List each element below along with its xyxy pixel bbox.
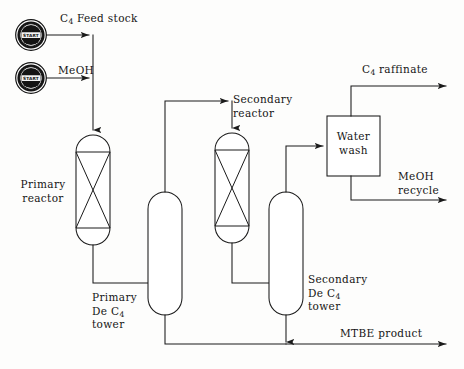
- stream-label-c4-raffinate: C4 raffinate: [362, 63, 428, 77]
- stream-line-primary-tower-bottoms: [165, 315, 286, 344]
- equipment-label-water-wash: Waterwash: [327, 130, 380, 157]
- equipment-label-primary-tower-line1: Primary: [92, 291, 137, 303]
- equipment-primary-de-c4-tower[interactable]: [148, 192, 182, 315]
- stream-label-c4-raffinate-subscript: 4: [370, 68, 375, 77]
- primary-tower-shell: [148, 192, 182, 315]
- equipment-label-primary-de-c4-tower: PrimaryDe C4tower: [92, 291, 137, 332]
- equipment-secondary-reactor[interactable]: [215, 133, 249, 243]
- equipment-label-secondary-tower-line3: tower: [308, 300, 341, 312]
- stream-line-secondary-tower-overhead-to-water-wash: [286, 146, 323, 192]
- stream-label-c4-feed-suffix: Feed stock: [73, 12, 138, 24]
- equipment-label-water-wash-line1: Water: [337, 130, 370, 142]
- equipment-label-primary-tower-line3: tower: [92, 318, 125, 330]
- stream-label-mtbe-product: MTBE product: [340, 327, 422, 341]
- process-flow-diagram: START START: [0, 0, 464, 369]
- stream-line-c4-raffinate: [351, 86, 446, 116]
- equipment-label-secondary-de-c4-tower: SecondaryDe C4tower: [308, 273, 367, 314]
- equipment-label-secondary-tower-line1: Secondary: [308, 273, 367, 285]
- equipment-label-primary-reactor-line1: Primary: [20, 178, 65, 190]
- start-node-meoh-feed[interactable]: START: [16, 63, 47, 94]
- equipment-label-secondary-tower-line2-prefix: De C: [308, 287, 335, 299]
- start-icon-label-c4: START: [23, 33, 39, 38]
- equipment-label-primary-reactor: Primaryreactor: [12, 178, 74, 205]
- stream-label-c4-raffinate-suffix: raffinate: [375, 63, 428, 75]
- stream-label-meoh-recycle-line2: recycle: [398, 184, 439, 196]
- stream-label-c4-feed-subscript: 4: [68, 17, 73, 26]
- stream-label-meoh-feed: MeOH: [58, 64, 94, 78]
- equipment-label-primary-tower-line2-prefix: De C: [92, 305, 119, 317]
- equipment-label-secondary-reactor-line2: reactor: [233, 107, 274, 119]
- equipment-label-primary-reactor-line2: reactor: [22, 192, 63, 204]
- secondary-tower-shell: [269, 192, 303, 315]
- equipment-label-secondary-tower-line2-subscript: 4: [335, 292, 340, 301]
- start-icon-label-meoh: START: [23, 76, 39, 81]
- start-node-c4-feed[interactable]: START: [16, 20, 47, 51]
- equipment-label-water-wash-line2: wash: [339, 144, 368, 156]
- equipment-label-primary-tower-line2-subscript: 4: [119, 310, 124, 319]
- equipment-primary-reactor[interactable]: [76, 135, 110, 245]
- equipment-secondary-de-c4-tower[interactable]: [269, 192, 303, 315]
- stream-label-c4-feed-stock: C4 Feed stock: [60, 12, 138, 26]
- stream-label-meoh-recycle-line1: MeOH: [398, 170, 434, 182]
- stream-label-meoh-recycle: MeOHrecycle: [398, 170, 439, 197]
- equipment-label-secondary-reactor-line1: Secondary: [233, 93, 292, 105]
- equipment-label-secondary-reactor: Secondaryreactor: [233, 93, 292, 120]
